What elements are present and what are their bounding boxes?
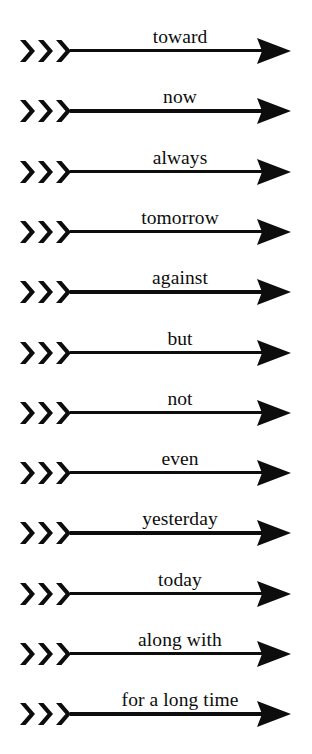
chevron-right-icon <box>19 462 37 484</box>
chevron-right-icon <box>19 281 37 303</box>
arrow-label: today <box>55 568 305 592</box>
arrow-row: today <box>0 570 312 616</box>
chevron-right-icon <box>19 221 37 243</box>
arrow-row: along with <box>0 630 312 676</box>
arrow-row: tomorrow <box>0 208 312 254</box>
arrow-shaft <box>70 531 262 534</box>
arrow-label: even <box>55 447 305 471</box>
arrow-shaft <box>70 471 262 474</box>
arrow-row: for a long time <box>0 690 312 736</box>
chevron-right-icon <box>37 40 55 62</box>
arrow-label: against <box>55 266 305 290</box>
arrow-label: not <box>55 387 305 411</box>
chevron-right-icon <box>19 342 37 364</box>
chevron-right-icon <box>37 522 55 544</box>
arrow-shaft <box>70 351 262 354</box>
chevron-right-icon <box>19 583 37 605</box>
arrow-row: not <box>0 389 312 435</box>
arrow-label: yesterday <box>55 507 305 531</box>
chevron-right-icon <box>37 703 55 725</box>
chevron-right-icon <box>37 100 55 122</box>
arrow-shaft <box>70 712 262 715</box>
arrow-label: but <box>55 327 305 351</box>
arrow-shaft <box>70 290 262 293</box>
arrow-row: toward <box>0 27 312 73</box>
arrow-shaft <box>70 49 262 52</box>
chevron-right-icon <box>19 161 37 183</box>
chevron-right-icon <box>37 281 55 303</box>
arrow-row: but <box>0 329 312 375</box>
chevron-right-icon <box>37 161 55 183</box>
arrow-shaft <box>70 230 262 233</box>
chevron-right-icon <box>19 402 37 424</box>
arrow-row: even <box>0 449 312 495</box>
chevron-right-icon <box>19 703 37 725</box>
arrow-shaft <box>70 411 262 414</box>
arrow-label: tomorrow <box>55 206 305 230</box>
chevron-right-icon <box>37 342 55 364</box>
arrow-shaft <box>70 170 262 173</box>
arrow-row: against <box>0 268 312 314</box>
chevron-right-icon <box>19 522 37 544</box>
arrow-row: yesterday <box>0 509 312 555</box>
chevron-right-icon <box>37 221 55 243</box>
arrow-label: along with <box>55 628 305 652</box>
arrow-shaft <box>70 652 262 655</box>
chevron-right-icon <box>37 462 55 484</box>
arrow-label: toward <box>55 25 305 49</box>
arrow-label: always <box>55 146 305 170</box>
arrow-shaft <box>70 592 262 595</box>
chevron-right-icon <box>19 643 37 665</box>
chevron-right-icon <box>37 583 55 605</box>
arrow-shaft <box>70 109 262 112</box>
chevron-right-icon <box>19 40 37 62</box>
arrow-label: for a long time <box>55 688 305 712</box>
arrow-word-list: towardnowalwaystomorrowagainstbutnoteven… <box>0 0 312 754</box>
arrow-row: always <box>0 148 312 194</box>
chevron-right-icon <box>37 402 55 424</box>
chevron-right-icon <box>37 643 55 665</box>
arrow-row: now <box>0 87 312 133</box>
chevron-right-icon <box>19 100 37 122</box>
arrow-label: now <box>55 85 305 109</box>
